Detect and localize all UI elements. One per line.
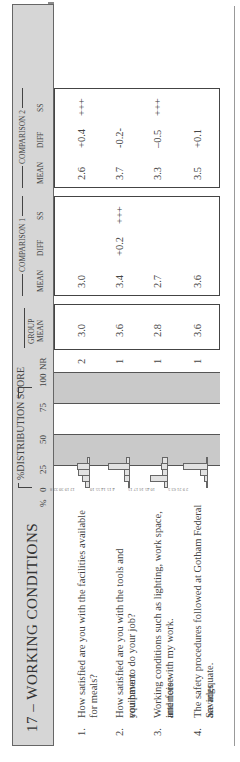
rotated-survey-table: 17 – WORKING CONDITIONS % %DISTRIBUTION … bbox=[0, 0, 240, 762]
histogram-bar bbox=[150, 475, 168, 482]
distribution-histogram bbox=[128, 450, 168, 488]
histogram-bar bbox=[183, 463, 208, 470]
nr-value: 1 bbox=[192, 359, 203, 364]
group-mean-label-1: GROUP bbox=[27, 319, 36, 344]
histogram-bar bbox=[82, 475, 90, 482]
histogram-bar bbox=[77, 463, 90, 470]
dist-bracket-right-top bbox=[18, 388, 19, 398]
comparison2-diff-label: DIFF bbox=[36, 132, 45, 148]
comparison2-ss: +++ bbox=[76, 98, 87, 116]
comparison2-mean-label: MEAN bbox=[36, 162, 45, 184]
question-number: 4. bbox=[192, 728, 203, 736]
comparison2-ss-label: SS bbox=[36, 104, 45, 112]
comparison1-mean-label: MEAN bbox=[36, 270, 45, 292]
dist-bracket-left bbox=[18, 487, 32, 488]
distribution-score-label: %DISTRIBUTION SCORE bbox=[15, 367, 26, 480]
comparison1-mean: 3.6 bbox=[192, 275, 203, 288]
nr-value: 2 bbox=[76, 359, 87, 364]
question-text-line2: you have to do your job? bbox=[126, 508, 138, 718]
comparison1-ss: +++ bbox=[114, 206, 125, 224]
scale-tick-25: 25 bbox=[38, 465, 48, 474]
dist-bracket-left-top bbox=[18, 483, 19, 488]
group-mean-value: 3.0 bbox=[76, 324, 87, 337]
scale-tick-100: 100 bbox=[38, 374, 48, 388]
section-title: 17 – WORKING CONDITIONS bbox=[24, 523, 41, 732]
group-mean-value: 3.6 bbox=[192, 324, 203, 337]
bottom-rule bbox=[234, 6, 235, 746]
question-text-line2: interfere with my work. bbox=[164, 508, 176, 718]
comparison1-title: COMPARISON 1 bbox=[18, 216, 27, 274]
table-row: 4. The safety procedures followed at Got… bbox=[192, 0, 222, 762]
histogram-bar bbox=[78, 469, 90, 476]
group-mean-value: 3.6 bbox=[114, 324, 125, 337]
comparison2-ss: +++ bbox=[152, 98, 163, 116]
question-number: 1. bbox=[76, 728, 87, 736]
table-row: 2. How satisfied are you with the tools … bbox=[114, 0, 144, 762]
scale-tick-75: 75 bbox=[38, 403, 48, 412]
nr-label: NR bbox=[38, 357, 48, 370]
question-text-line2: are adequate. bbox=[204, 508, 216, 718]
comparison1-diff-label: DIFF bbox=[36, 240, 45, 256]
nr-value: 1 bbox=[152, 359, 163, 364]
comparison1-ss-label: SS bbox=[36, 212, 45, 220]
comparison2-diff: –0.5 bbox=[152, 130, 163, 148]
table-row: 3. Working conditions such as lighting, … bbox=[152, 0, 182, 762]
distribution-percentages: 4 15 14 55 10 bbox=[90, 487, 115, 492]
comparison2-mean: 3.3 bbox=[152, 167, 163, 180]
distribution-percentages: 10 45 16 17 15 bbox=[128, 487, 155, 492]
histogram-bar bbox=[108, 463, 130, 470]
comparison2-mean: 3.5 bbox=[192, 167, 203, 180]
pct-label: % bbox=[38, 500, 48, 508]
comparison2-mean: 2.6 bbox=[76, 167, 87, 180]
group-mean-value: 2.8 bbox=[152, 324, 163, 337]
scale-tick-50: 50 bbox=[38, 435, 48, 444]
histogram-bar bbox=[161, 463, 168, 470]
comparison1-mean: 2.7 bbox=[152, 275, 163, 288]
distribution-histogram bbox=[90, 450, 130, 488]
comparison2-title: COMPARISON 2 bbox=[18, 108, 27, 166]
comparison1-mean: 3.4 bbox=[114, 275, 125, 288]
nr-value: 1 bbox=[114, 359, 125, 364]
distribution-percentages: 2 9 21 63 5 bbox=[168, 487, 188, 492]
comparison2-diff: +0.4 bbox=[76, 129, 87, 148]
question-text: How satisfied are you with the facilitie… bbox=[76, 508, 100, 718]
comparison1-diff: +0.2 bbox=[114, 237, 125, 256]
scale-tick-0: 0 bbox=[38, 488, 48, 493]
histogram-bar bbox=[206, 481, 208, 488]
question-number: 2. bbox=[114, 728, 125, 736]
table-row: 1. How satisfied are you with the facili… bbox=[76, 0, 106, 762]
comparison2-mean: 3.7 bbox=[114, 167, 125, 180]
histogram-bar bbox=[206, 457, 208, 464]
distribution-histogram bbox=[168, 450, 208, 488]
group-mean-label-2: MEAN bbox=[36, 320, 45, 342]
group-mean-bracket-top bbox=[24, 308, 25, 348]
histogram-bar bbox=[200, 469, 208, 476]
dist-bracket-right bbox=[18, 387, 32, 388]
comparison2-diff: -0.2- bbox=[114, 128, 125, 148]
question-number: 3. bbox=[152, 728, 163, 736]
distribution-percentages: 12 19 30 32 8 bbox=[50, 487, 75, 492]
comparison1-mean: 3.0 bbox=[76, 275, 87, 288]
histogram-bar bbox=[204, 475, 208, 482]
distribution-histogram bbox=[50, 450, 90, 488]
comparison2-diff: +0.1 bbox=[192, 129, 203, 148]
